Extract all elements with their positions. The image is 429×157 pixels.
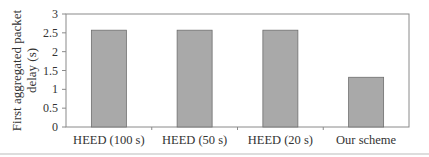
y-tick-label: 0.5 [43,101,58,115]
y-tick-label: 1.5 [43,64,58,78]
bar [177,30,212,127]
x-tick-label: HEED (50 s) [162,133,227,147]
y-tick-label: 3 [52,7,58,21]
x-tick-label: HEED (20 s) [248,133,313,147]
y-tick-label: 2.5 [43,26,58,40]
y-axis-label: First aggregated packetdelay (s) [9,9,39,131]
divider [0,153,429,155]
x-tick-label: HEED (100 s) [73,133,145,147]
y-tick-label: 0 [52,120,58,134]
bar-chart: 00.511.522.53 HEED (100 s)HEED (50 s)HEE… [0,0,429,157]
y-tick-label: 2 [52,45,58,59]
bar [263,30,298,127]
y-axis: 00.511.522.53 [43,7,66,134]
plot-area [66,14,409,127]
x-tick-label: Our scheme [336,133,396,147]
bar [91,30,126,127]
bar [349,77,384,127]
x-axis: HEED (100 s)HEED (50 s)HEED (20 s)Our sc… [73,127,396,147]
y-tick-label: 1 [52,82,58,96]
